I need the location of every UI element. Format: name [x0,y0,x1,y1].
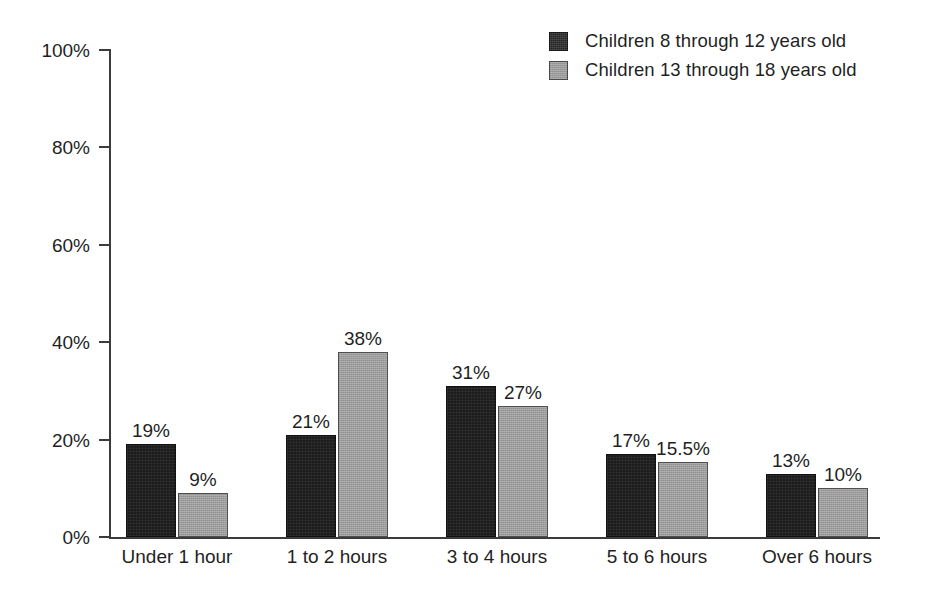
bar: 13% [766,474,816,537]
x-axis-label: 3 to 4 hours [447,546,547,568]
y-tick-label: 40% [52,333,90,352]
bar-value-label: 31% [452,363,490,383]
bar: 10% [818,488,868,537]
y-tick-label: 80% [52,138,90,157]
bar: 31% [446,386,496,537]
y-tick-label: 100% [41,41,90,60]
y-tick-mark: 20% [99,439,110,441]
y-axis-line [109,49,111,538]
bar-value-label: 9% [189,470,216,490]
bar-value-label: 15.5% [656,439,710,459]
bar-value-label: 21% [292,412,330,432]
bar: 17% [606,454,656,537]
plot-area: 0%20%40%60%80%100% 19%9%21%38%31%27%17%1… [110,50,880,537]
y-tick-mark: 80% [99,146,110,148]
legend-item-children-8-12: Children 8 through 12 years old [549,30,857,52]
bar-value-label: 17% [612,431,650,451]
y-tick-label: 60% [52,235,90,254]
x-axis-label: 5 to 6 hours [607,546,707,568]
bar-value-label: 10% [824,465,862,485]
y-tick-mark: 40% [99,341,110,343]
y-tick-label: 20% [52,430,90,449]
y-tick-mark: 0% [99,536,110,538]
y-tick-mark: 60% [99,244,110,246]
bar: 15.5% [658,462,708,537]
bar-value-label: 13% [772,451,810,471]
bar-value-label: 19% [132,421,170,441]
y-tick-mark: 100% [99,49,110,51]
bar: 38% [338,352,388,537]
y-tick-label: 0% [63,528,90,547]
bar: 19% [126,444,176,537]
x-axis-label: 1 to 2 hours [287,546,387,568]
bar: 9% [178,493,228,537]
bar: 21% [286,435,336,537]
x-axis-label: Under 1 hour [122,546,233,568]
legend-label-children-8-12: Children 8 through 12 years old [585,31,846,51]
x-axis-label: Over 6 hours [762,546,872,568]
x-axis-line [109,537,880,539]
bar-value-label: 27% [504,383,542,403]
bar: 27% [498,406,548,537]
bar-chart: Children 8 through 12 years old Children… [0,0,931,602]
legend-swatch-dark-icon [549,32,568,51]
bar-value-label: 38% [344,329,382,349]
